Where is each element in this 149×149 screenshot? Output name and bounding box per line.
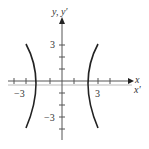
x-tick-label-neg3: −3 — [14, 88, 25, 99]
y-axis-arrow-icon — [59, 17, 65, 24]
x-tick-label-3: 3 — [95, 88, 100, 99]
hyperbola-figure: y, y′ x x′ −3 3 3 −3 — [0, 0, 149, 149]
x-prime-axis-label: x′ — [133, 84, 141, 95]
right-branch — [88, 44, 98, 128]
left-branch — [26, 44, 36, 128]
y-tick-label-neg3: −3 — [44, 112, 55, 123]
y-axis-label: y, y′ — [51, 6, 68, 17]
y-tick-label-3: 3 — [50, 39, 55, 50]
